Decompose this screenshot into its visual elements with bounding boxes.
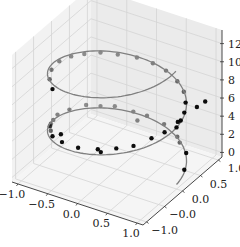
scatter-point xyxy=(60,140,64,144)
scatter-point xyxy=(114,146,118,150)
y-tick-label: −1.0 xyxy=(151,224,178,237)
x-tick-label: 0.0 xyxy=(63,208,81,221)
scatter-point xyxy=(50,134,54,138)
z-axis-tick-labels: 024681012 xyxy=(220,38,240,160)
scatter-point xyxy=(99,150,103,154)
z-tick-label: 4 xyxy=(228,110,235,123)
scatter-point xyxy=(162,130,166,134)
scatter-point xyxy=(84,103,88,107)
scatter-point xyxy=(135,118,139,122)
z-tick-label: 12 xyxy=(228,38,240,51)
x-tick-label: −0.5 xyxy=(28,198,55,211)
x-tick-label: 1.0 xyxy=(122,227,140,240)
y-tick-label: 1.0 xyxy=(228,162,240,175)
scatter-point xyxy=(195,105,199,109)
scatter-point xyxy=(49,68,53,72)
z-tick-label: 10 xyxy=(228,56,240,69)
3d-plot: −1.0−0.50.00.51.0 −1.0−0.00.00.51.0 0246… xyxy=(0,0,240,247)
z-tick-label: 0 xyxy=(228,146,235,159)
scatter-point xyxy=(183,100,187,104)
y-tick-label: −0.0 xyxy=(169,208,196,221)
x-tick-label: −1.0 xyxy=(0,188,25,201)
scatter-point xyxy=(182,168,186,172)
y-tick-label: 0.0 xyxy=(192,193,210,206)
z-tick-label: 6 xyxy=(228,92,235,105)
z-tick-label: 8 xyxy=(228,74,235,87)
scatter-point xyxy=(49,129,53,133)
y-tick-label: 0.5 xyxy=(210,178,228,191)
scatter-point xyxy=(182,110,186,114)
scatter-point xyxy=(76,146,80,150)
scatter-point xyxy=(203,99,207,103)
scatter-point xyxy=(176,120,180,124)
scatter-point xyxy=(184,151,188,155)
scatter-point xyxy=(113,104,117,108)
scatter-point xyxy=(149,136,153,140)
x-tick-label: 0.5 xyxy=(93,217,111,230)
scatter-point xyxy=(174,125,178,129)
scatter-point xyxy=(59,132,63,136)
scatter-point xyxy=(131,144,135,148)
scatter-point xyxy=(50,87,54,91)
z-tick-label: 2 xyxy=(228,128,235,141)
